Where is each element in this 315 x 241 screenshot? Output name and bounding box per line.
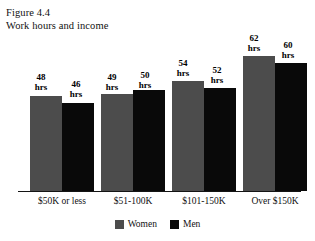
data-label-value: 62 — [238, 33, 270, 43]
legend-item-women: Women — [115, 219, 157, 229]
data-label-unit: hrs — [129, 80, 161, 90]
data-label-g2-men: 50 hrs — [129, 70, 161, 90]
data-label-g2-women: 49 hrs — [96, 72, 128, 92]
data-label-value: 50 — [129, 70, 161, 80]
data-label-value: 46 — [60, 79, 92, 89]
bar-women-50k-or-less — [30, 96, 62, 191]
legend-swatch-men-icon — [170, 220, 179, 229]
data-label-value: 49 — [96, 72, 128, 82]
bar-men-101-150k — [204, 88, 236, 191]
data-label-g1-men: 46 hrs — [60, 79, 92, 99]
legend-swatch-women-icon — [115, 220, 124, 229]
data-label-unit: hrs — [60, 89, 92, 99]
bar-women-51-100k — [101, 94, 133, 191]
x-axis-line — [18, 191, 301, 192]
data-label-g1-women: 48 hrs — [25, 72, 57, 92]
x-axis-label-101-150k: $101-150K — [164, 196, 244, 206]
bar-chart: Figure 4.4 Work hours and income 48 hrs … — [0, 0, 315, 241]
chart-legend: Women Men — [0, 219, 315, 229]
bar-men-over-150k — [275, 63, 307, 191]
legend-label-men: Men — [183, 219, 200, 229]
data-label-value: 54 — [167, 58, 199, 68]
data-label-unit: hrs — [238, 43, 270, 53]
data-label-g4-women: 62 hrs — [238, 33, 270, 53]
bar-men-50k-or-less — [62, 103, 94, 191]
data-label-g3-men: 52 hrs — [201, 65, 233, 85]
data-label-unit: hrs — [25, 82, 57, 92]
data-label-unit: hrs — [272, 50, 304, 60]
data-label-unit: hrs — [96, 82, 128, 92]
data-label-unit: hrs — [201, 75, 233, 85]
data-label-g3-women: 54 hrs — [167, 58, 199, 78]
data-label-value: 52 — [201, 65, 233, 75]
bar-men-51-100k — [133, 90, 165, 191]
x-axis-label-51-100k: $51-100K — [93, 196, 173, 206]
figure-number: Figure 4.4 — [6, 6, 108, 19]
data-label-value: 60 — [272, 40, 304, 50]
data-label-value: 48 — [25, 72, 57, 82]
x-axis-label-over-150k: Over $150K — [235, 196, 315, 206]
bar-women-over-150k — [243, 56, 275, 191]
x-axis-label-50k-or-less: $50K or less — [22, 196, 102, 206]
bar-women-101-150k — [172, 81, 204, 191]
data-label-g4-men: 60 hrs — [272, 40, 304, 60]
figure-caption: Figure 4.4 Work hours and income — [6, 6, 108, 33]
legend-label-women: Women — [128, 219, 157, 229]
legend-item-men: Men — [170, 219, 200, 229]
data-label-unit: hrs — [167, 68, 199, 78]
chart-title: Work hours and income — [6, 19, 108, 32]
